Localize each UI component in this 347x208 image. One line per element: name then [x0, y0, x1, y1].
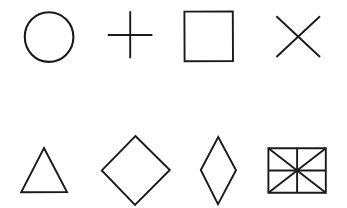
shape-divided-rectangle: [268, 148, 325, 193]
shape-diamond: [102, 136, 170, 205]
shape-circle: [25, 12, 74, 62]
triangle-outline: [21, 148, 67, 192]
rhombus-outline: [201, 137, 236, 204]
shape-canvas: [0, 0, 347, 208]
square-outline: [184, 11, 233, 61]
shape-triangle: [21, 148, 67, 192]
divided-rectangle-center-dot: [295, 169, 299, 173]
shape-sheet: [0, 0, 347, 208]
circle-outline: [25, 12, 74, 62]
shape-rhombus: [201, 137, 236, 204]
shape-plus: [108, 11, 153, 58]
shape-x-cross: [276, 16, 320, 57]
diamond-outline: [102, 136, 170, 205]
shape-square: [184, 11, 233, 61]
